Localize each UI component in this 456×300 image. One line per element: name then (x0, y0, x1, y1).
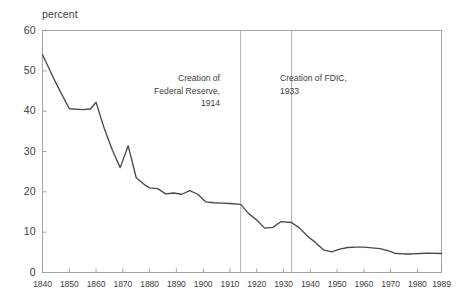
y-tick-label: 40 (10, 105, 36, 116)
y-tick-label: 30 (10, 146, 36, 157)
y-tick-label: 50 (10, 65, 36, 76)
annotation-federal-reserve: Creation of Federal Reserve, 1914 (154, 72, 220, 110)
y-tick-label: 20 (10, 186, 36, 197)
x-tick-label: 1989 (425, 279, 456, 289)
y-tick-label: 0 (10, 267, 36, 278)
y-tick-label: 60 (10, 25, 36, 36)
event-marker-lines (241, 31, 292, 273)
annotation-fdic: Creation of FDIC, 1933 (280, 72, 347, 97)
y-tick-label: 10 (10, 226, 36, 237)
tick-marks (43, 31, 442, 273)
data-series-line (43, 55, 442, 254)
axis-frame (43, 31, 442, 273)
